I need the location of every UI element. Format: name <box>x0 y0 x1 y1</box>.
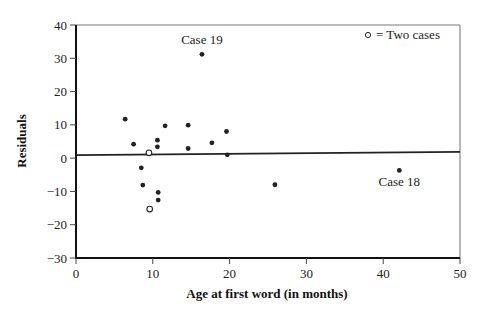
y-tick-label: 0 <box>61 151 68 166</box>
x-tick-label: 40 <box>377 266 390 281</box>
data-point <box>163 123 168 128</box>
data-point <box>397 168 402 173</box>
data-point <box>123 117 128 122</box>
data-point <box>131 142 136 147</box>
data-point <box>224 129 229 134</box>
x-axis-title: Age at first word (in months) <box>186 286 347 301</box>
data-point <box>156 198 161 203</box>
data-point <box>273 182 278 187</box>
y-tick-label: 40 <box>54 18 67 33</box>
data-point <box>155 138 160 143</box>
x-tick-label: 0 <box>73 266 80 281</box>
y-tick-label: −30 <box>47 251 67 266</box>
data-point <box>225 152 230 157</box>
y-tick-label: −10 <box>47 184 67 199</box>
y-tick-label: 20 <box>54 84 67 99</box>
data-point <box>140 183 145 188</box>
legend-open-circle-marker <box>365 32 370 37</box>
data-point <box>210 140 215 145</box>
y-tick-label: 30 <box>54 51 67 66</box>
zero-reference-line <box>76 152 460 155</box>
data-point <box>200 52 205 57</box>
x-tick-label: 20 <box>223 266 236 281</box>
legend-text: = Two cases <box>376 27 440 42</box>
y-tick-label: 10 <box>54 117 67 132</box>
x-tick-label: 30 <box>300 266 313 281</box>
residual-scatter-chart: −30−20−1001020304001020304050 Case 19Cas… <box>0 0 483 314</box>
data-point <box>186 146 191 151</box>
data-point <box>156 190 161 195</box>
data-point-two-cases <box>147 206 153 212</box>
x-tick-label: 10 <box>146 266 159 281</box>
y-tick-label: −20 <box>47 217 67 232</box>
data-point-two-cases <box>146 150 152 156</box>
data-point <box>155 144 160 149</box>
case-annotation: Case 18 <box>379 174 421 189</box>
y-axis-title: Residuals <box>14 114 29 167</box>
x-tick-label: 50 <box>454 266 467 281</box>
case-annotation: Case 19 <box>181 32 223 47</box>
data-point <box>186 123 191 128</box>
legend: = Two cases <box>365 27 440 42</box>
data-point <box>139 165 144 170</box>
